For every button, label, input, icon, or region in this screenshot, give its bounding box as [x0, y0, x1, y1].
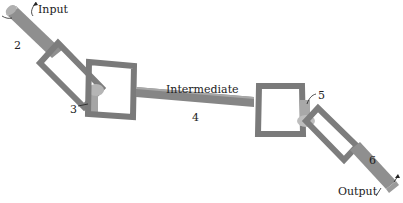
part-6-label: 6 — [369, 155, 376, 166]
intermediate-label: Intermediate — [166, 84, 239, 95]
input-label: Input — [38, 4, 68, 15]
output-yoke — [306, 108, 357, 160]
part-3-label: 3 — [70, 104, 77, 115]
part-4-label: 4 — [192, 112, 199, 123]
right-square-yoke — [258, 86, 303, 134]
universal-joint-diagram: Input 2 3 Intermediate 4 5 6 Output — [0, 0, 403, 203]
output-label: Output — [338, 186, 377, 197]
part-5-label: 5 — [318, 90, 325, 101]
mechanism-drawing — [0, 0, 403, 203]
part-2-label: 2 — [14, 40, 21, 51]
